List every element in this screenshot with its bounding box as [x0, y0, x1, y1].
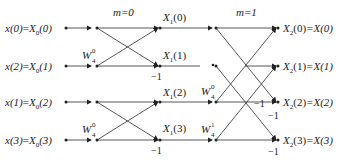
- minus-one-stage2-cross: −1: [254, 98, 265, 109]
- input-label-1: x(2)=X0(1): [5, 60, 52, 77]
- stage1-output-label-1: X1(1): [163, 49, 186, 66]
- minus-one-stage2-row3: −1: [268, 146, 279, 157]
- output-label-0: X2(0)=X(0): [283, 22, 333, 39]
- input-label-0: x(0)=X0(0): [5, 22, 52, 39]
- stage-label-m0: m=0: [113, 6, 134, 18]
- stage1-output-label-2: X1(2): [163, 86, 186, 103]
- fft-butterfly-diagram: m=0 m=1 x(0)=X0(0) x(2)=X0(1) x(1)=X0(2)…: [0, 0, 342, 165]
- input-label-2: x(1)=X0(2): [5, 96, 52, 113]
- stage1-output-label-0: X1(0): [163, 11, 186, 28]
- input-label-3: x(3)=X0(3): [5, 134, 52, 151]
- twiddle-stage2-row3: W14: [201, 124, 210, 134]
- minus-one-stage2-row2: −1: [268, 110, 279, 121]
- output-label-2: X2(2)=X(2): [283, 96, 333, 113]
- twiddle-stage1-row3: W04: [82, 124, 91, 134]
- twiddle-stage2-row2: W04: [201, 86, 210, 96]
- output-label-1: X2(1)=X(1): [283, 60, 333, 77]
- stage-label-m1: m=1: [236, 6, 257, 18]
- stage1-output-label-3: X1(3): [163, 122, 186, 139]
- minus-one-stage1-row3: −1: [151, 145, 162, 156]
- minus-one-stage1-row1: −1: [151, 71, 162, 82]
- output-label-3: X2(3)=X(3): [283, 134, 333, 151]
- twiddle-stage1-row1: W04: [82, 50, 91, 60]
